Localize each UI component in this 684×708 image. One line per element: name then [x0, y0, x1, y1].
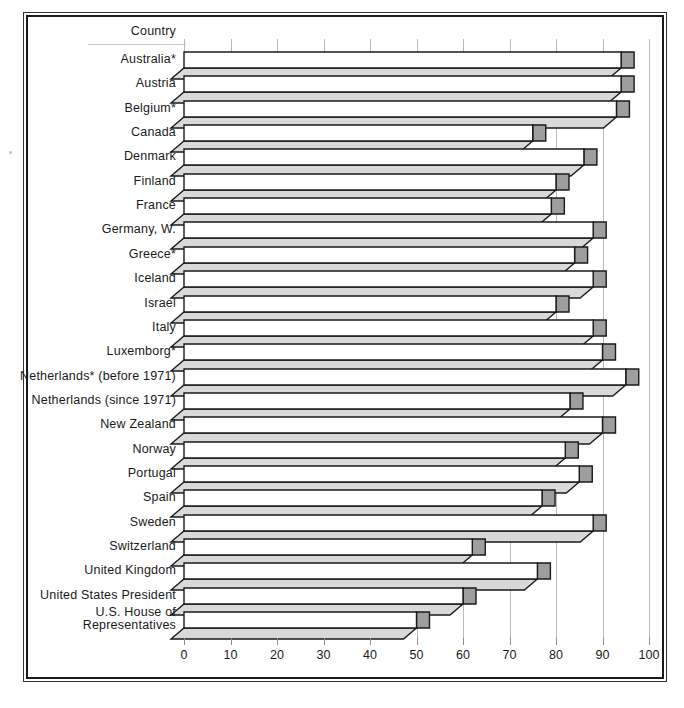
- tick-mark-50: [417, 638, 418, 645]
- bar-end-cap: [593, 515, 606, 531]
- bar-end-cap: [570, 393, 583, 409]
- bar-row[interactable]: Sweden: [26, 515, 660, 539]
- tick-mark-100: [649, 638, 650, 645]
- bar-end-cap: [579, 466, 592, 482]
- bar-end-cap: [621, 76, 634, 92]
- bar-row[interactable]: U.S. House ofRepresentatives: [26, 612, 660, 636]
- tick-mark-40: [370, 638, 371, 645]
- bar-end-cap: [472, 539, 485, 555]
- x-tick-label: 0: [181, 648, 188, 662]
- plot-area: Country Australia*AustriaBelgium*CanadaD…: [26, 15, 660, 675]
- bar-row[interactable]: Iceland: [26, 271, 660, 295]
- tick-mark-10: [231, 638, 232, 645]
- bar-front-face[interactable]: [184, 320, 593, 336]
- bar-row[interactable]: Austria: [26, 76, 660, 100]
- bar-end-cap: [537, 563, 550, 579]
- x-tick-label: 30: [317, 648, 331, 662]
- tick-mark-0: [184, 638, 185, 645]
- bar-end-cap: [584, 149, 597, 165]
- bar-row[interactable]: Canada: [26, 125, 660, 149]
- bar-row[interactable]: Israel: [26, 296, 660, 320]
- bar-row[interactable]: Netherlands (since 1971): [26, 393, 660, 417]
- bar-row[interactable]: Luxemborg*: [26, 344, 660, 368]
- bar-end-cap: [565, 442, 578, 458]
- bar-front-face[interactable]: [184, 563, 537, 579]
- header-rule: [88, 44, 186, 45]
- x-tick-label: 50: [410, 648, 424, 662]
- bar-row[interactable]: Denmark: [26, 149, 660, 173]
- bar-front-face[interactable]: [184, 442, 565, 458]
- bar-end-cap: [593, 271, 606, 287]
- bar-front-face[interactable]: [184, 344, 603, 360]
- bar-row[interactable]: Portugal: [26, 466, 660, 490]
- chart-page: Country Australia*AustriaBelgium*CanadaD…: [0, 0, 684, 708]
- bar-row[interactable]: Spain: [26, 490, 660, 514]
- bar-row[interactable]: France: [26, 198, 660, 222]
- bar-front-face[interactable]: [184, 393, 570, 409]
- bar-front-face[interactable]: [184, 247, 575, 263]
- bar-front-face[interactable]: [184, 588, 463, 604]
- bar-front-face[interactable]: [184, 198, 551, 214]
- bar-row[interactable]: United Kingdom: [26, 563, 660, 587]
- bar-end-cap: [533, 125, 546, 141]
- x-tick-label: 80: [549, 648, 563, 662]
- bar-front-face[interactable]: [184, 101, 616, 117]
- bar-front-face[interactable]: [184, 149, 584, 165]
- tick-mark-30: [324, 638, 325, 645]
- bar-front-face[interactable]: [184, 369, 626, 385]
- tick-mark-70: [510, 638, 511, 645]
- x-tick-label: 60: [456, 648, 470, 662]
- bar-row[interactable]: Greece*: [26, 247, 660, 271]
- bar-front-face[interactable]: [184, 296, 556, 312]
- bar-end-cap: [551, 198, 564, 214]
- bar-row[interactable]: Norway: [26, 442, 660, 466]
- bar-front-face[interactable]: [184, 417, 603, 433]
- bar-row[interactable]: Finland: [26, 174, 660, 198]
- tick-mark-60: [463, 638, 464, 645]
- x-tick-label: 90: [596, 648, 610, 662]
- bar-front-face[interactable]: [184, 490, 542, 506]
- bar-top-face: [171, 628, 417, 639]
- bar-front-face[interactable]: [184, 174, 556, 190]
- bar-front-face[interactable]: [184, 125, 533, 141]
- tick-mark-20: [277, 638, 278, 645]
- bar-3d[interactable]: [26, 612, 660, 643]
- bar-row[interactable]: Australia*: [26, 52, 660, 76]
- bar-end-cap: [463, 588, 476, 604]
- bar-end-cap: [556, 296, 569, 312]
- bar-end-cap: [417, 612, 430, 628]
- bar-end-cap: [556, 174, 569, 190]
- column-header-country: Country: [131, 24, 176, 38]
- bar-front-face[interactable]: [184, 515, 593, 531]
- bar-row[interactable]: Germany, W.: [26, 222, 660, 246]
- bar-row[interactable]: Italy: [26, 320, 660, 344]
- x-tick-label: 10: [224, 648, 238, 662]
- bar-end-cap: [593, 222, 606, 238]
- bar-end-cap: [616, 101, 629, 117]
- bar-end-cap: [603, 417, 616, 433]
- tick-mark-90: [603, 638, 604, 645]
- bar-front-face[interactable]: [184, 612, 417, 628]
- bar-end-cap: [593, 320, 606, 336]
- bar-row[interactable]: Belgium*: [26, 101, 660, 125]
- stray-speck: [9, 151, 12, 154]
- bar-row[interactable]: Netherlands* (before 1971): [26, 369, 660, 393]
- bar-end-cap: [626, 369, 639, 385]
- x-tick-label: 70: [503, 648, 517, 662]
- bar-end-cap: [603, 344, 616, 360]
- bar-end-cap: [542, 490, 555, 506]
- x-tick-label: 40: [363, 648, 377, 662]
- bar-front-face[interactable]: [184, 76, 621, 92]
- bar-front-face[interactable]: [184, 222, 593, 238]
- bar-end-cap: [575, 247, 588, 263]
- x-tick-label: 100: [639, 648, 660, 662]
- x-tick-label: 20: [270, 648, 284, 662]
- bar-front-face[interactable]: [184, 52, 621, 68]
- bar-row[interactable]: New Zealand: [26, 417, 660, 441]
- bar-row[interactable]: Switzerland: [26, 539, 660, 563]
- bar-front-face[interactable]: [184, 271, 593, 287]
- bar-front-face[interactable]: [184, 466, 579, 482]
- bar-front-face[interactable]: [184, 539, 472, 555]
- bar-end-cap: [621, 52, 634, 68]
- tick-mark-80: [556, 638, 557, 645]
